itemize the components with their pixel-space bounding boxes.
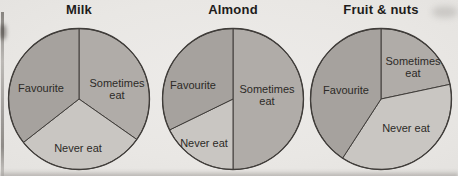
milk-pie-figure: Milk SometimeseatNever eatFavourite [4,0,154,176]
slice-label-favourite: Favourite [170,79,216,91]
slice-label-sometimes-eat: eat [259,95,274,107]
slice-label-never-eat: Never eat [54,142,102,154]
milk-pie-chart: SometimeseatNever eatFavourite [4,24,154,174]
slice-label-never-eat: Never eat [180,137,228,149]
slice-label-sometimes-eat: Sometimes [89,77,145,89]
slice-label-favourite: Favourite [323,84,369,96]
slice-label-favourite: Favourite [18,82,64,94]
slice-label-sometimes-eat: Sometimes [385,55,441,67]
fruit-and-nuts-pie-chart: SometimeseatNever eatFavourite [306,24,456,174]
pie-title-almond: Almond [158,2,308,17]
pie-charts-figure: Milk SometimeseatNever eatFavourite Almo… [0,0,458,176]
slice-label-sometimes-eat: eat [109,89,124,101]
fruit-and-nuts-pie-figure: Fruit & nuts SometimeseatNever eatFavour… [306,0,456,176]
almond-pie-figure: Almond SometimeseatNever eatFavourite [158,0,308,176]
almond-pie-chart: SometimeseatNever eatFavourite [158,24,308,174]
slice-label-sometimes-eat: eat [405,67,420,79]
pie-title-fruit-and-nuts: Fruit & nuts [306,2,456,17]
pie-title-milk: Milk [4,2,154,17]
slice-label-never-eat: Never eat [382,122,430,134]
slice-label-sometimes-eat: Sometimes [239,83,295,95]
